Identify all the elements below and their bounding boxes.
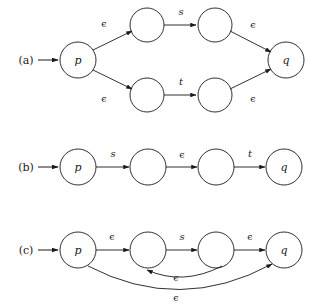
panel-a-node-p-label: p (74, 54, 81, 67)
nfa-diagram-canvas: (a) p q ϵ s ϵ ϵ t ϵ (b) p (0, 0, 312, 304)
panel-b: (b) p q s ϵ t (18, 148, 302, 185)
panel-c-edge-1-2-label: s (179, 231, 184, 242)
panel-b-edge-1-2-label: ϵ (179, 149, 184, 160)
panel-a-edge-p-bot1 (93, 70, 132, 89)
panel-c-edge-2-q-label: ϵ (247, 231, 252, 242)
nfa-figure: (a) p q ϵ s ϵ ϵ t ϵ (b) p (0, 0, 312, 304)
panel-a-node-top-2 (198, 8, 232, 42)
panel-a: (a) p q ϵ s ϵ ϵ t ϵ (18, 6, 304, 112)
panel-a-edge-p-bot1-label: ϵ (101, 93, 106, 104)
panel-a-edge-bot1-bot2-label: t (179, 76, 184, 87)
panel-a-edge-p-top1 (93, 31, 132, 50)
panel-a-edge-top1-top2-label: s (178, 6, 183, 17)
panel-a-edge-bot2-q (230, 69, 271, 89)
panel-b-edge-p-1-label: s (110, 148, 115, 159)
panel-a-edge-p-top1-label: ϵ (101, 18, 106, 29)
panel-a-node-q-label: q (282, 54, 289, 67)
panel-c-label: (c) (19, 244, 34, 257)
panel-a-node-bot-1 (130, 78, 164, 112)
panel-c-node-1 (130, 232, 166, 268)
panel-b-edge-2-q-label: t (248, 148, 253, 159)
panel-c-edge-2-1-label: ϵ (173, 272, 178, 283)
panel-c-node-2 (198, 232, 234, 268)
panel-c-edge-p-q-label: ϵ (173, 292, 178, 303)
panel-a-node-bot-2 (198, 78, 232, 112)
panel-a-node-top-1 (130, 8, 164, 42)
panel-a-label: (a) (18, 54, 33, 67)
panel-c-node-p-label: p (74, 244, 81, 257)
panel-c: (c) p q ϵ s ϵ ϵ ϵ (19, 231, 302, 303)
panel-b-node-q-label: q (280, 161, 287, 174)
panel-a-edge-bot2-q-label: ϵ (250, 93, 255, 104)
panel-b-label: (b) (18, 161, 34, 174)
panel-c-edge-p-1-label: ϵ (109, 231, 114, 242)
panel-b-node-1 (130, 149, 166, 185)
panel-b-node-2 (198, 149, 234, 185)
panel-a-edge-top2-q-label: ϵ (250, 19, 255, 30)
panel-c-node-q-label: q (280, 244, 287, 257)
panel-a-edge-top2-q (230, 31, 271, 52)
panel-b-node-p-label: p (74, 161, 81, 174)
